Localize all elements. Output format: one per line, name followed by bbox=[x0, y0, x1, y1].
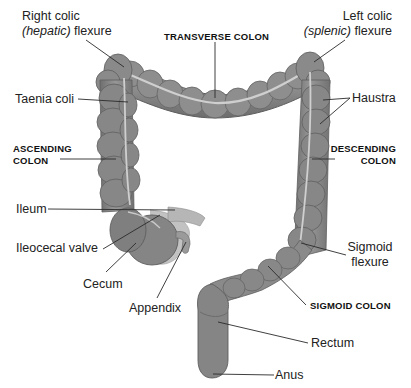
label-text: Sigmoid bbox=[340, 240, 400, 255]
label-cecum: Cecum bbox=[83, 277, 123, 292]
colon-diagram: Right colic (hepatic) flexure TRANSVERSE… bbox=[0, 0, 411, 388]
label-italic: (hepatic) bbox=[22, 24, 71, 38]
label-left-colic-flexure: Left colic (splenic) flexure bbox=[300, 9, 392, 39]
label-rest: flexure bbox=[351, 24, 392, 38]
label-descending-colon: DESCENDING COLON bbox=[318, 143, 396, 167]
label-ileocecal-valve: Ileocecal valve bbox=[16, 241, 98, 256]
label-taenia-coli: Taenia coli bbox=[15, 92, 74, 107]
label-haustra: Haustra bbox=[352, 91, 396, 106]
label-text-line2: (hepatic) flexure bbox=[22, 24, 112, 39]
label-text-line2: COLON bbox=[13, 155, 72, 167]
label-ascending-colon: ASCENDING COLON bbox=[13, 143, 72, 167]
label-italic: (splenic) bbox=[304, 24, 351, 38]
label-text-line2: (splenic) flexure bbox=[300, 24, 392, 39]
label-sigmoid-colon: SIGMOID COLON bbox=[310, 300, 391, 312]
label-text: Left colic bbox=[300, 9, 392, 24]
label-rest: flexure bbox=[71, 24, 112, 38]
label-transverse-colon: TRANSVERSE COLON bbox=[164, 31, 269, 43]
label-ileum: Ileum bbox=[16, 202, 47, 217]
rectum bbox=[198, 284, 229, 378]
label-text-line2: flexure bbox=[340, 255, 400, 270]
label-anus: Anus bbox=[275, 368, 304, 383]
colon-illustration bbox=[0, 0, 411, 388]
transverse-colon bbox=[110, 61, 318, 118]
label-appendix: Appendix bbox=[129, 301, 181, 316]
label-text: ASCENDING bbox=[13, 143, 72, 155]
label-text-line2: COLON bbox=[318, 155, 396, 167]
label-right-colic-flexure: Right colic (hepatic) flexure bbox=[22, 9, 112, 39]
label-text: Right colic bbox=[22, 9, 112, 24]
label-text: DESCENDING bbox=[318, 143, 396, 155]
label-sigmoid-flexure: Sigmoid flexure bbox=[340, 240, 400, 270]
ascending-colon bbox=[97, 78, 140, 212]
label-rectum: Rectum bbox=[311, 336, 354, 351]
